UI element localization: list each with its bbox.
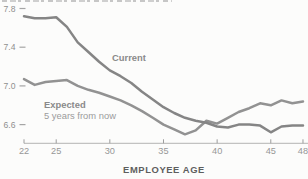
y-tick-label: 7.0	[4, 81, 16, 91]
expected-series-label: Expected	[44, 99, 86, 110]
clipped-title-text	[2, 0, 172, 2]
y-tick-label: 6.6	[4, 120, 16, 130]
x-tick-label: 22	[19, 146, 29, 156]
x-tick-label: 40	[212, 146, 222, 156]
x-tick-label: 45	[266, 146, 276, 156]
satisfaction-line-chart: 22253035404548EMPLOYEE AGE 7.87.47.06.6 …	[0, 0, 308, 179]
x-tick-label: 48	[298, 146, 308, 156]
y-tick-label: 7.8	[4, 4, 16, 14]
x-axis: 22253035404548EMPLOYEE AGE	[19, 139, 308, 174]
expected-series-sublabel: 5 years from now	[44, 110, 116, 121]
series-annotations: CurrentExpected5 years from now	[44, 52, 146, 122]
x-tick-label: 25	[51, 146, 61, 156]
y-tick-label: 7.4	[4, 42, 16, 52]
chart-container: 22253035404548EMPLOYEE AGE 7.87.47.06.6 …	[0, 0, 308, 179]
current-series-label: Current	[112, 52, 146, 63]
x-tick-label: 30	[105, 146, 115, 156]
y-axis: 7.87.47.06.6	[4, 4, 26, 130]
x-tick-label: 35	[158, 146, 168, 156]
x-axis-title: EMPLOYEE AGE	[123, 164, 205, 175]
